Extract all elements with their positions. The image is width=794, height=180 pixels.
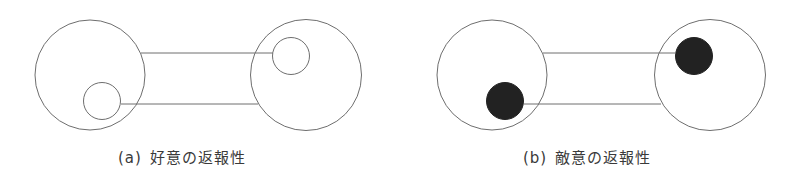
- panel-b-right-inner-circle: [676, 38, 713, 75]
- panel-b: [437, 20, 766, 131]
- panel-a-title: 好意の返報性: [150, 149, 246, 167]
- panel-a-tag: (a): [118, 149, 142, 167]
- panel-a-right-person-circle: [251, 20, 362, 131]
- panel-a-caption: (a)好意の返報性: [118, 146, 246, 167]
- panel-a-left-person-circle: [35, 20, 145, 130]
- panel-b-left-inner-circle: [487, 83, 524, 120]
- panel-b-tag: (b): [523, 149, 547, 167]
- panel-a-right-inner-circle: [273, 38, 310, 75]
- panel-b-right-person-circle: [655, 20, 766, 131]
- panel-b-caption: (b)敵意の返報性: [523, 146, 651, 167]
- panel-b-title: 敵意の返報性: [555, 149, 651, 167]
- panel-a: [35, 20, 362, 131]
- panel-a-left-inner-circle: [84, 83, 121, 120]
